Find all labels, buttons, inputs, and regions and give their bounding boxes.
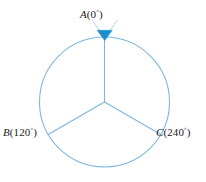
label-point-c: C(240◦) [156, 127, 191, 138]
radius-line-c [105, 102, 161, 135]
figure-canvas [0, 0, 206, 182]
leader-line-left [93, 21, 101, 32]
pointer-triangle-icon [97, 30, 112, 40]
leader-line-right [109, 21, 117, 32]
radius-line-b [48, 102, 104, 135]
label-point-a: A(0◦) [80, 9, 103, 20]
caption-clipped-strip [0, 176, 206, 182]
label-point-b: B(120◦) [3, 127, 37, 138]
circle-sector-figure: A(0◦) B(120◦) C(240◦) [0, 0, 206, 182]
